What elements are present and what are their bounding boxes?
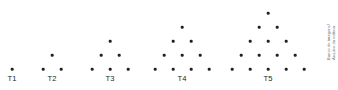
pattern-dot (267, 68, 270, 71)
pattern-dot (294, 54, 297, 57)
term-label-4: T4 (178, 74, 187, 83)
pattern-dot (60, 68, 63, 71)
pattern-dot (172, 40, 175, 43)
pattern-dot (163, 54, 166, 57)
pattern-dot (100, 54, 103, 57)
pattern-dot (276, 26, 279, 29)
pattern-dot (249, 68, 252, 71)
pattern-dot (42, 68, 45, 71)
pattern-dot (231, 68, 234, 71)
pattern-dot (181, 54, 184, 57)
pattern-dot (258, 26, 261, 29)
term-label-3: T3 (106, 74, 115, 83)
pattern-dot (240, 54, 243, 57)
pattern-dot (181, 26, 184, 29)
pattern-dot (267, 12, 270, 15)
pattern-dot (285, 40, 288, 43)
pattern-dot (172, 68, 175, 71)
pattern-dot (249, 40, 252, 43)
triangular-numbers-figure: T1T2T3T4T5 Banco de imagens/ Arquivo da … (0, 0, 338, 90)
pattern-dot (109, 40, 112, 43)
image-credit: Banco de imagens/ Arquivo da editora (326, 4, 338, 60)
pattern-dot (190, 40, 193, 43)
pattern-dot (208, 68, 211, 71)
pattern-dot (303, 68, 306, 71)
pattern-dot (127, 68, 130, 71)
term-label-5: T5 (264, 74, 273, 83)
pattern-dot (91, 68, 94, 71)
pattern-dot (190, 68, 193, 71)
pattern-dot (51, 54, 54, 57)
pattern-dot (118, 54, 121, 57)
pattern-dot (109, 68, 112, 71)
term-label-2: T2 (48, 74, 57, 83)
pattern-dot (285, 68, 288, 71)
term-label-1: T1 (8, 74, 17, 83)
pattern-dot (199, 54, 202, 57)
pattern-dot (154, 68, 157, 71)
pattern-dot (267, 40, 270, 43)
image-credit-line-2: Arquivo da editora (331, 4, 336, 60)
pattern-dot (276, 54, 279, 57)
pattern-dot (258, 54, 261, 57)
pattern-dot (11, 68, 14, 71)
